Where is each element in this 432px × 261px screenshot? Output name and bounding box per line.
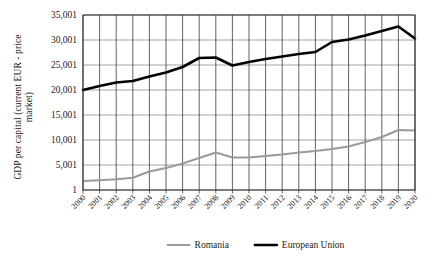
x-axis-tick-label: 2019 [385, 193, 403, 211]
x-axis-tick-label: 2006 [169, 193, 187, 211]
x-axis-tick-label: 2016 [335, 193, 353, 211]
x-axis-tick-label: 2017 [352, 193, 370, 211]
x-axis-tick-label: 2011 [252, 193, 270, 211]
x-axis-tick-label: 2004 [136, 193, 154, 211]
x-axis-tick-label: 2010 [236, 193, 254, 211]
x-axis-tick-labels: 2000200120022003200420052006200720082009… [70, 190, 420, 211]
y-axis-tick-labels: 15,00110,00115,00120,00125,00130,00135,0… [51, 10, 77, 195]
legend-label-romania: Romania [195, 240, 230, 250]
x-axis-tick-label: 2000 [70, 193, 88, 211]
y-axis-tick-label: 35,001 [51, 10, 77, 20]
y-axis-tick-label: 1 [72, 185, 77, 195]
x-axis-tick-label: 2003 [119, 193, 137, 211]
y-axis-tick-label: 10,001 [51, 135, 77, 145]
y-axis-tick-label: 30,001 [51, 35, 77, 45]
x-axis-tick-label: 2013 [285, 193, 303, 211]
x-axis-tick-label: 2014 [302, 193, 320, 211]
x-axis-tick-label: 2009 [219, 193, 237, 211]
y-axis-tick-label: 25,001 [51, 60, 77, 70]
y-axis-tick-label: 5,001 [56, 160, 78, 170]
x-axis-tick-label: 2020 [402, 193, 420, 211]
x-axis-tick-label: 2005 [153, 193, 171, 211]
x-axis-tick-label: 2008 [202, 193, 220, 211]
x-axis-tick-label: 2001 [86, 193, 104, 211]
x-axis-tick-label: 2018 [368, 193, 386, 211]
chart-container: GDP per capital (current EUR - price mar… [0, 0, 432, 261]
gridlines [83, 15, 415, 190]
y-axis-tick-label: 20,001 [51, 85, 77, 95]
y-axis-tick-label: 15,001 [51, 110, 77, 120]
plot-area-wrapper: 15,00110,00115,00120,00125,00130,00135,0… [0, 0, 432, 261]
x-axis-tick-label: 2015 [319, 193, 337, 211]
line-chart-svg: 15,00110,00115,00120,00125,00130,00135,0… [0, 0, 432, 261]
x-axis-tick-label: 2012 [269, 193, 287, 211]
x-axis-tick-label: 2007 [186, 193, 204, 211]
chart-legend: RomaniaEuropean Union [168, 240, 345, 250]
legend-label-european-union: European Union [282, 240, 345, 250]
x-axis-tick-label: 2002 [103, 193, 121, 211]
